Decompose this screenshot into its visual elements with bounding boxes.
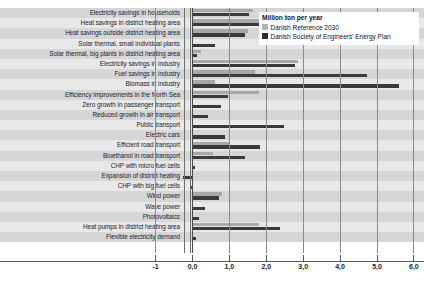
x-tick-label: 6,0 bbox=[409, 263, 419, 270]
x-tick-mark bbox=[192, 255, 193, 262]
chart-row: Flexible electricity demand bbox=[0, 232, 424, 242]
bar-group bbox=[0, 232, 424, 242]
x-tick-mark bbox=[266, 255, 267, 262]
bar-reference bbox=[193, 80, 215, 83]
bar-energy-plan bbox=[193, 115, 208, 118]
chart-row: Efficiency improvements in the North Sea bbox=[0, 90, 424, 100]
bar-energy-plan bbox=[193, 95, 228, 98]
x-tick-label: 0,0 bbox=[188, 263, 198, 270]
bar-reference bbox=[193, 9, 253, 12]
x-tick-label: 4,0 bbox=[335, 263, 345, 270]
chart-row: Fuel savings in industry bbox=[0, 69, 424, 79]
bar-energy-plan bbox=[193, 64, 296, 67]
bar-group bbox=[0, 69, 424, 79]
bar-group bbox=[0, 191, 424, 201]
bar-group bbox=[0, 110, 424, 120]
bar-group bbox=[0, 161, 424, 171]
bar-reference bbox=[193, 50, 201, 53]
legend-label-energy-plan: Danish Society of Engineers' Energy Plan bbox=[271, 33, 391, 41]
bar-energy-plan bbox=[193, 54, 197, 57]
bar-energy-plan bbox=[193, 207, 205, 210]
bar-energy-plan bbox=[193, 74, 368, 77]
bar-energy-plan bbox=[193, 166, 196, 169]
chart-row: Zero growth in passenger transport bbox=[0, 100, 424, 110]
bar-energy-plan bbox=[193, 84, 400, 87]
bar-energy-plan bbox=[193, 196, 220, 199]
legend-swatch-reference bbox=[262, 24, 268, 30]
bar-reference bbox=[193, 60, 298, 63]
chart-row: Electricity savings in industry bbox=[0, 59, 424, 69]
chart-row: Reduced growth in air transport bbox=[0, 110, 424, 120]
bar-group bbox=[0, 171, 424, 181]
x-tick-label: -1 bbox=[152, 263, 158, 270]
bar-energy-plan bbox=[193, 237, 197, 240]
bar-group bbox=[0, 79, 424, 89]
x-tick-mark bbox=[303, 255, 304, 262]
legend-item-energy-plan: Danish Society of Engineers' Energy Plan bbox=[262, 33, 416, 41]
chart-row: Photovoltaics bbox=[0, 212, 424, 222]
bar-group bbox=[0, 90, 424, 100]
bar-group bbox=[0, 140, 424, 150]
bar-reference bbox=[193, 223, 259, 226]
bar-group bbox=[0, 100, 424, 110]
bar-group bbox=[0, 151, 424, 161]
chart-row: Wave power bbox=[0, 202, 424, 212]
bar-reference bbox=[193, 29, 248, 32]
x-tick-mark bbox=[340, 255, 341, 262]
x-tick-mark bbox=[155, 255, 156, 262]
x-tick-label: 2,0 bbox=[261, 263, 271, 270]
bar-group bbox=[0, 212, 424, 222]
bar-group bbox=[0, 202, 424, 212]
bar-reference bbox=[193, 70, 256, 73]
chart-row: Solar thermal, big plants in district he… bbox=[0, 49, 424, 59]
bar-energy-plan bbox=[193, 217, 200, 220]
x-tick-label: 5,0 bbox=[372, 263, 382, 270]
chart-row: Wind power bbox=[0, 191, 424, 201]
bar-energy-plan bbox=[193, 125, 284, 128]
x-tick-label: 1,0 bbox=[225, 263, 235, 270]
legend-item-reference: Danish Reference 2030 bbox=[262, 24, 416, 32]
legend: Million ton per year Danish Reference 20… bbox=[259, 12, 419, 45]
legend-title: Million ton per year bbox=[262, 14, 416, 21]
chart-row: Efficient road transport bbox=[0, 140, 424, 150]
bar-energy-plan bbox=[193, 105, 222, 108]
bar-energy-plan bbox=[193, 13, 249, 16]
bar-reference bbox=[193, 152, 213, 155]
bar-group bbox=[0, 49, 424, 59]
x-axis: -10,01,02,03,04,05,06,0 bbox=[0, 263, 424, 285]
legend-swatch-energy-plan bbox=[262, 33, 268, 39]
legend-label-reference: Danish Reference 2030 bbox=[271, 24, 339, 32]
bar-group bbox=[0, 59, 424, 69]
bar-energy-plan bbox=[193, 135, 226, 138]
bar-energy-plan bbox=[193, 227, 281, 230]
chart-row: Biomass in industry bbox=[0, 79, 424, 89]
chart-row: CHP with micro fuel cells bbox=[0, 161, 424, 171]
x-tick-label: 3,0 bbox=[298, 263, 308, 270]
bar-energy-plan bbox=[193, 44, 215, 47]
bar-group bbox=[0, 130, 424, 140]
bar-energy-plan bbox=[191, 186, 193, 189]
plot-area: Electricity savings in householdsHeat sa… bbox=[0, 8, 424, 263]
bar-energy-plan bbox=[193, 156, 246, 159]
bar-chart: Electricity savings in householdsHeat sa… bbox=[0, 0, 424, 287]
chart-row: Public transport bbox=[0, 120, 424, 130]
bar-reference bbox=[193, 192, 223, 195]
bar-reference bbox=[193, 142, 230, 145]
bar-energy-plan bbox=[193, 145, 260, 148]
x-tick-mark bbox=[377, 255, 378, 262]
bar-group bbox=[0, 120, 424, 130]
bar-group bbox=[0, 222, 424, 232]
bar-energy-plan bbox=[183, 176, 192, 179]
chart-row: CHP with big fuel cells bbox=[0, 181, 424, 191]
chart-row: Heat pumps in district heating area bbox=[0, 222, 424, 232]
chart-row: Electric cars bbox=[0, 130, 424, 140]
bar-energy-plan bbox=[193, 33, 246, 36]
bar-group bbox=[0, 181, 424, 191]
x-tick-mark bbox=[229, 255, 230, 262]
chart-row: Expansion of district heating bbox=[0, 171, 424, 181]
chart-row: Bioethanol in road transport bbox=[0, 151, 424, 161]
bar-reference bbox=[193, 91, 259, 94]
x-tick-mark bbox=[413, 255, 414, 262]
